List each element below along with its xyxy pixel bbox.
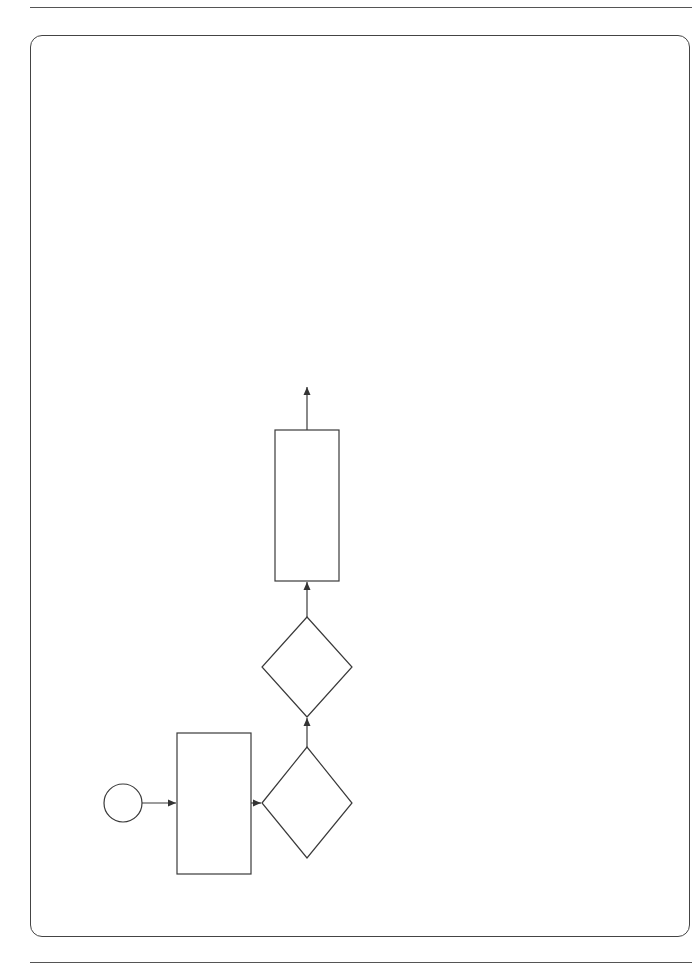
connector-b-circle xyxy=(104,784,142,822)
box-half-retention-unused xyxy=(319,325,353,387)
box-halved xyxy=(275,430,339,581)
box-defects-certificate xyxy=(177,733,251,874)
decision-issued xyxy=(262,747,352,858)
flowchart-geometry xyxy=(0,0,699,966)
decision-first-assessment xyxy=(262,617,352,717)
